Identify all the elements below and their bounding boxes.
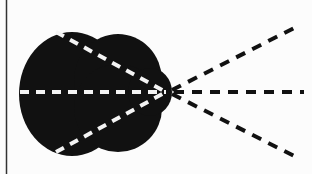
outer-ray-0 bbox=[172, 26, 298, 90]
diagram-canvas bbox=[0, 0, 312, 174]
outer-diverging-rays bbox=[172, 26, 304, 158]
outer-ray-2 bbox=[172, 94, 298, 158]
ray-diagram bbox=[0, 0, 312, 174]
